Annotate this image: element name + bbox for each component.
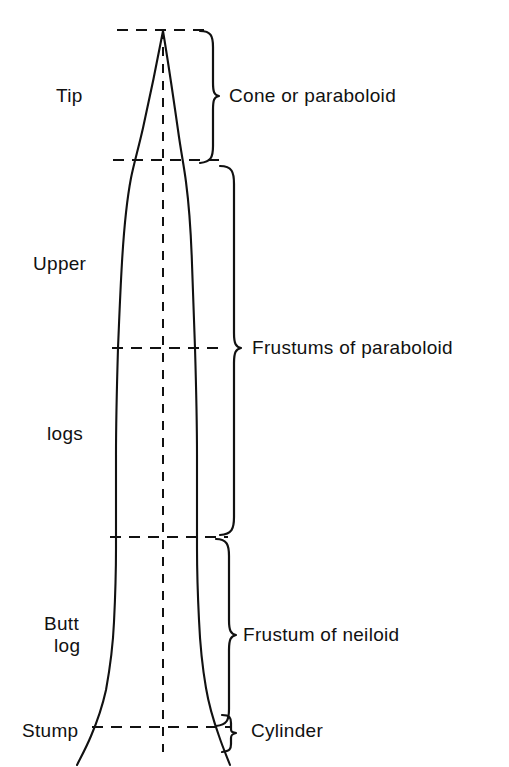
label-logs: logs (47, 423, 83, 444)
label-frustums-of-paraboloid: Frustums of paraboloid (252, 337, 453, 358)
label-butt-log-line1: Butt (44, 613, 79, 634)
label-butt-log-line2: log (54, 635, 80, 656)
label-cylinder: Cylinder (251, 720, 323, 741)
label-tip: Tip (56, 85, 83, 106)
label-upper: Upper (33, 253, 86, 274)
label-cone-or-paraboloid: Cone or paraboloid (229, 85, 396, 106)
label-frustum-of-neiloid: Frustum of neiloid (243, 624, 399, 645)
label-stump: Stump (22, 720, 78, 741)
